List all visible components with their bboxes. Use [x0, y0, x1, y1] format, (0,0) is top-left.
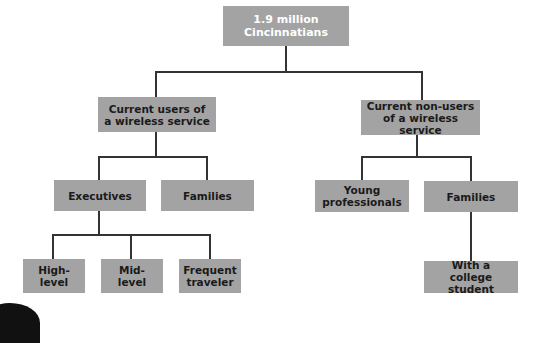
connector-young-up: [361, 156, 363, 181]
node-families-users: Families: [161, 180, 254, 211]
connector-nonusers-bar: [361, 156, 471, 158]
connector-families-right-down: [470, 212, 472, 262]
connector-executives-up: [98, 156, 100, 181]
connector-users-up: [155, 71, 157, 98]
node-root: 1.9 million Cincinnatians: [223, 6, 349, 46]
node-high-level: High- level: [23, 259, 85, 293]
connector-executives-down: [98, 210, 100, 235]
connector-users-bar: [98, 156, 207, 158]
connector-families-left-up: [206, 156, 208, 181]
connector-mid-up: [130, 234, 132, 260]
node-mid-level: Mid- level: [101, 259, 163, 293]
node-college-student: With a college student: [424, 261, 518, 293]
node-label: High- level: [38, 264, 70, 288]
node-label: Executives: [68, 190, 132, 202]
connector-families-right-up: [470, 156, 472, 182]
node-label: Frequent traveler: [183, 264, 236, 288]
node-label: Families: [447, 191, 496, 203]
connector-nonusers-up: [421, 71, 423, 101]
node-current-users: Current users of a wireless service: [98, 97, 216, 132]
node-frequent-traveler: Frequent traveler: [179, 259, 241, 293]
connector-users-down: [155, 131, 157, 157]
node-label: Young professionals: [322, 184, 401, 208]
connector-frequent-up: [209, 234, 211, 260]
node-label: Current users of a wireless service: [104, 103, 210, 127]
node-label: 1.9 million Cincinnatians: [244, 13, 328, 39]
node-young-professionals: Young professionals: [315, 180, 409, 212]
node-current-non-users: Current non-users of a wireless service: [361, 100, 480, 135]
connector-root-down: [285, 46, 287, 72]
connector-level1-bar: [155, 71, 423, 73]
node-executives: Executives: [54, 180, 146, 211]
node-families-non-users: Families: [424, 181, 518, 212]
decorative-shape: [0, 303, 40, 343]
node-label: Families: [183, 190, 232, 202]
connector-nonusers-down: [416, 134, 418, 157]
connector-high-up: [52, 234, 54, 260]
node-label: With a college student: [426, 259, 516, 295]
node-label: Current non-users of a wireless service: [363, 100, 478, 136]
node-label: Mid- level: [118, 264, 146, 288]
